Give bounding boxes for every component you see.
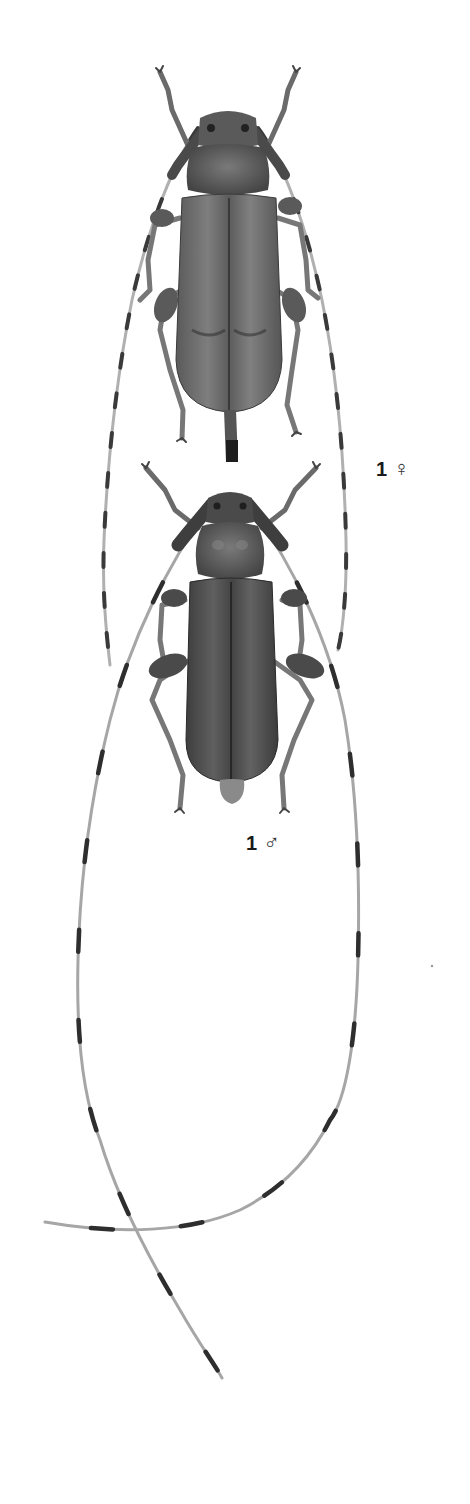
male-femur — [145, 649, 190, 683]
male-pronotum — [196, 522, 265, 579]
male-head — [206, 492, 254, 525]
specimen-number: 1 — [246, 832, 257, 855]
specimen-number: 1 — [376, 458, 387, 481]
female-femur — [278, 284, 311, 325]
male-symbol-icon: ♂ — [263, 830, 280, 856]
speck — [431, 965, 433, 967]
female-femur — [278, 197, 302, 215]
illustration-plate — [0, 0, 470, 1504]
male-femur — [161, 589, 187, 607]
female-symbol-icon: ♀ — [393, 456, 410, 482]
label-male: 1 ♂ — [246, 830, 280, 856]
male-femur — [281, 589, 307, 607]
male-abdomen-tip — [220, 779, 245, 804]
female-pronotum — [187, 144, 270, 195]
label-female: 1 ♀ — [376, 456, 410, 482]
male-elytra — [186, 578, 278, 782]
female-femur — [150, 209, 174, 227]
female-head — [198, 111, 258, 149]
male-femur — [282, 649, 327, 683]
beetle-male — [45, 462, 359, 1378]
